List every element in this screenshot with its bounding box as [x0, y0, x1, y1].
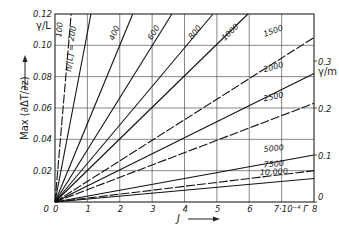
series-label: 1500	[262, 24, 284, 39]
x-arrow-head-icon	[213, 217, 220, 222]
y-right-tick-label: 0.1	[318, 151, 332, 161]
y-left-tick-label: 0.12	[33, 9, 52, 19]
x-tick-label: 8	[312, 204, 318, 214]
x-tick-label: 0	[53, 204, 58, 214]
series-label: 200	[67, 25, 79, 42]
y-left-tick-label: 0.04	[33, 134, 52, 144]
x-tick-label: 2	[118, 204, 123, 214]
x-tick-label: 7·10⁻⁴ Γ	[274, 204, 310, 214]
parameter-label: h/[L] =	[64, 44, 76, 73]
y-arrow-head-icon	[23, 55, 28, 62]
x-tick-label: 3	[150, 204, 155, 214]
series-label: 2000	[262, 60, 284, 74]
y-left-tick-label: 0.10	[33, 40, 52, 50]
x-tick-label: 4	[183, 204, 188, 214]
y-right-tick-label: 0.2	[318, 104, 332, 114]
y-left-unit: γ/L	[36, 20, 51, 31]
series-label: 10,000	[260, 167, 288, 178]
series-label: 2500	[263, 90, 285, 103]
series-label: 800	[187, 24, 204, 41]
x-tick-label: 1	[85, 204, 90, 214]
origin-label: 0	[44, 204, 49, 214]
x-tick-label: 6	[247, 204, 253, 214]
y-right-tick-label: 0	[318, 192, 323, 202]
y-right-unit: γ/m	[318, 66, 337, 77]
chart: 01234567·10⁻⁴ Γ80.020.040.060.080.100.12…	[0, 0, 339, 232]
axis-ticks: 01234567·10⁻⁴ Γ80.020.040.060.080.100.12…	[33, 9, 331, 214]
x-axis-label: J	[175, 213, 180, 224]
x-tick-label: 5	[215, 204, 220, 214]
series-label: 1000	[220, 22, 241, 43]
series-label: 5000	[263, 143, 284, 154]
y-left-tick-label: 0.06	[33, 103, 53, 113]
series-label: 600	[146, 24, 162, 42]
y-left-tick-label: 0.02	[33, 166, 52, 176]
series-label: 400	[107, 24, 121, 42]
y-left-tick-label: 0.08	[33, 72, 53, 82]
series-label: 100	[54, 22, 64, 38]
